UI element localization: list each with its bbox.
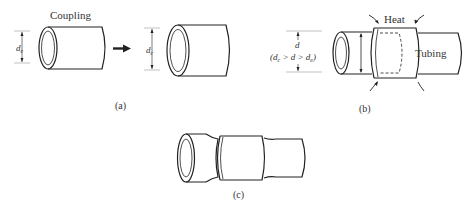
caption-c: (c) (233, 189, 244, 201)
shape-memory-coupling-diagram: Coupling de dc (a) Heat Tubing d (dc > d… (0, 0, 474, 203)
dim-de: de (16, 43, 24, 54)
panel-a-coupling-before (14, 27, 105, 69)
dim-d: d (295, 40, 300, 50)
label-coupling: Coupling (50, 9, 91, 21)
label-heat: Heat (384, 13, 405, 25)
dim-dc: dc (146, 45, 154, 56)
caption-b: (b) (359, 103, 371, 115)
panel-c-crimped-joint (178, 134, 306, 182)
panel-a-coupling-expanded (144, 25, 230, 76)
label-tubing: Tubing (415, 47, 447, 59)
dim-inequality: (dc > d > de) (270, 52, 316, 63)
caption-a: (a) (115, 100, 126, 112)
arrow-icon (113, 45, 131, 53)
